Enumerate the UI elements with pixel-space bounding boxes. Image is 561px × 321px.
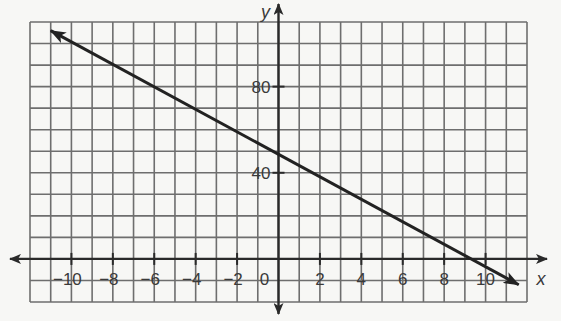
plotted-line xyxy=(51,31,519,285)
line-graph: −10−8−6−4−202468104080xy xyxy=(0,0,561,321)
y-tick-label: 80 xyxy=(252,78,271,97)
y-tick-label: 40 xyxy=(252,164,271,183)
data-line xyxy=(51,31,519,285)
x-tick-label: −10 xyxy=(53,270,82,289)
x-tick-label: −2 xyxy=(223,270,242,289)
y-axis-label: y xyxy=(259,2,271,22)
x-tick-label: −6 xyxy=(141,270,160,289)
x-tick-label: 0 xyxy=(260,270,269,289)
x-tick-label: 10 xyxy=(476,270,495,289)
x-tick-label: −8 xyxy=(99,270,118,289)
x-tick-label: 2 xyxy=(315,270,324,289)
x-tick-label: 4 xyxy=(357,270,366,289)
axes xyxy=(10,4,547,314)
x-tick-label: −4 xyxy=(182,270,201,289)
x-axis-label: x xyxy=(536,269,547,289)
x-tick-label: 8 xyxy=(439,270,448,289)
x-tick-label: 6 xyxy=(398,270,407,289)
